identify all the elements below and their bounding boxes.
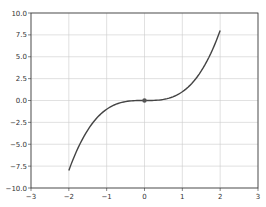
x-tick-label: −1: [102, 193, 112, 201]
x-axis-ticks: −3−2−10123: [26, 188, 260, 201]
y-tick-label: 10.0: [11, 10, 27, 18]
y-axis-ticks: −10.0−7.5−5.0−2.50.02.55.07.510.0: [6, 10, 31, 193]
point-markers: [142, 98, 146, 102]
y-tick-label: −5.0: [10, 141, 27, 149]
chart: −3−2−10123 −10.0−7.5−5.0−2.50.02.55.07.5…: [0, 0, 266, 207]
x-tick-label: −3: [26, 193, 36, 201]
y-tick-label: −10.0: [6, 185, 27, 193]
y-tick-label: 5.0: [16, 53, 27, 61]
y-tick-label: −7.5: [10, 163, 27, 171]
y-tick-label: 0.0: [16, 97, 27, 105]
x-tick-label: 2: [218, 193, 222, 201]
x-tick-label: 1: [180, 193, 184, 201]
y-tick-label: 7.5: [16, 31, 27, 39]
x-tick-label: 0: [142, 193, 146, 201]
y-tick-label: 2.5: [16, 75, 27, 83]
y-tick-label: −2.5: [10, 119, 27, 127]
x-tick-label: −2: [64, 193, 74, 201]
origin-marker: [142, 98, 146, 102]
x-tick-label: 3: [256, 193, 260, 201]
